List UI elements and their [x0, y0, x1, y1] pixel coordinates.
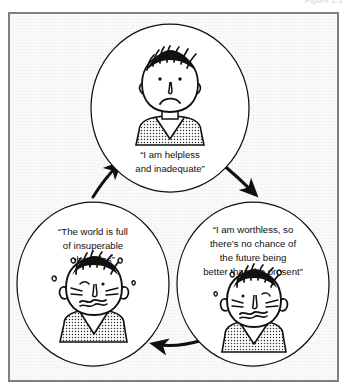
- node-bottom-right[interactable]: “I am worthless, so there’s no chance of…: [177, 202, 329, 366]
- node-top-label-line-1: “I am helpless: [140, 149, 200, 160]
- cognitive-triad-diagram: “I am helpless and inadequate” “The worl…: [8, 12, 339, 382]
- node-bottom-left-label-line-1: “The world is full: [58, 226, 128, 237]
- edge-bottom-right-to-bottom-left: [154, 340, 203, 346]
- node-top-label-line-2: and inadequate”: [135, 163, 204, 174]
- figure-caption: Figure 1.1: [305, 0, 343, 5]
- node-top[interactable]: “I am helpless and inadequate”: [91, 24, 249, 192]
- node-bottom-right-label-line-1: “I am worthless, so: [213, 224, 294, 235]
- node-bottom-left-label-line-2: of insuperable: [63, 240, 123, 251]
- figure-caption-strip: Figure 1.1: [0, 0, 349, 11]
- node-bottom-right-label-line-3: the future being: [220, 252, 287, 263]
- node-bottom-left[interactable]: “The world is full of insuperable obstac…: [17, 202, 169, 366]
- figure-root: Figure 1.1: [0, 0, 349, 392]
- node-bottom-right-label-line-2: there’s no chance of: [210, 238, 297, 249]
